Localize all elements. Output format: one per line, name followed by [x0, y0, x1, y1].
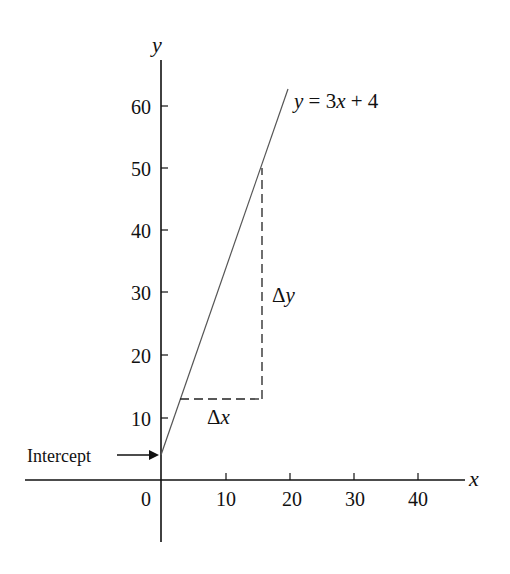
intercept-arrow-icon — [149, 450, 159, 460]
intercept-label: Intercept — [27, 446, 91, 466]
y-tick-label: 50 — [131, 158, 151, 180]
line-y-equals-3x-plus-4 — [161, 89, 288, 455]
x-tick-label: 20 — [282, 488, 302, 510]
origin-label: 0 — [141, 488, 151, 510]
y-ticks — [161, 106, 168, 418]
x-axis-label: x — [468, 466, 479, 491]
x-tick-label: 30 — [345, 488, 365, 510]
equation-label: y = 3x + 4 — [292, 89, 379, 113]
y-tick-label: 40 — [131, 220, 151, 242]
y-tick-label: 10 — [131, 408, 151, 430]
y-tick-label: 60 — [131, 96, 151, 118]
y-tick-label: 20 — [131, 345, 151, 367]
y-axis-label: y — [150, 32, 162, 57]
delta-x-label: Δx — [207, 405, 231, 429]
slope-intercept-diagram: 60 50 40 30 20 10 0 10 20 30 40 y x y = … — [0, 0, 510, 574]
y-tick-label: 30 — [131, 282, 151, 304]
delta-y-label: Δy — [272, 283, 296, 307]
x-tick-label: 40 — [408, 488, 428, 510]
x-tick-label: 10 — [216, 488, 236, 510]
x-ticks — [226, 473, 418, 480]
